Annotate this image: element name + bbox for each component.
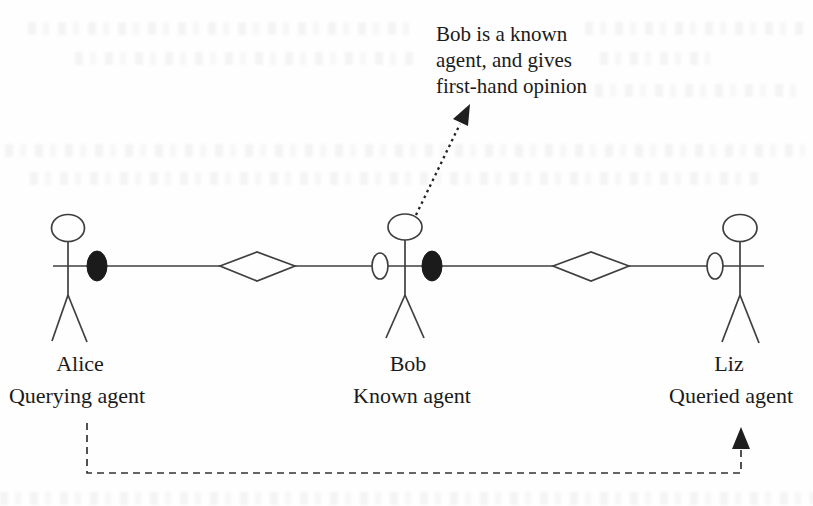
liz-open-node bbox=[707, 253, 723, 279]
bob-filled-node bbox=[422, 251, 442, 281]
annotation-line-2: agent, and gives bbox=[436, 48, 572, 72]
bob-role-label: Known agent bbox=[353, 383, 471, 408]
bob-figure bbox=[386, 214, 424, 338]
trust-diagram: Bob is a known agent, and gives first-ha… bbox=[0, 0, 813, 506]
liz-figure bbox=[722, 215, 759, 344]
bob-name-label: Bob bbox=[390, 351, 427, 376]
query-path-dashed-line bbox=[87, 423, 741, 473]
bob-head bbox=[388, 214, 422, 240]
alice-leg-right bbox=[68, 295, 87, 342]
bob-leg-left bbox=[386, 295, 405, 338]
trust-diamond-1 bbox=[220, 252, 295, 281]
alice-filled-node bbox=[87, 251, 107, 281]
bob-open-node bbox=[372, 253, 388, 279]
liz-role-label: Queried agent bbox=[669, 383, 793, 408]
trust-diamond-2 bbox=[553, 252, 629, 281]
alice-name-label: Alice bbox=[56, 351, 104, 376]
annotation-arrow-line bbox=[416, 124, 460, 215]
bob-leg-right bbox=[405, 295, 424, 338]
alice-leg-left bbox=[52, 295, 68, 341]
alice-role-label: Querying agent bbox=[9, 383, 145, 408]
liz-leg-left bbox=[722, 295, 740, 342]
annotation-line-1: Bob is a known bbox=[436, 22, 568, 46]
liz-name-label: Liz bbox=[714, 351, 744, 376]
liz-leg-right bbox=[740, 295, 759, 343]
alice-figure bbox=[52, 215, 88, 343]
query-arrowhead-icon bbox=[732, 427, 750, 449]
annotation-arrowhead-icon bbox=[453, 104, 470, 126]
annotation-line-3: first-hand opinion bbox=[436, 74, 588, 98]
liz-head bbox=[723, 215, 757, 242]
figure-canvas: Bob is a known agent, and gives first-ha… bbox=[0, 0, 813, 506]
alice-head bbox=[52, 215, 85, 242]
